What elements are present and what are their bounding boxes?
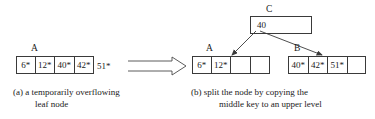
key-cell: 42* <box>75 57 94 73</box>
key-cell: 6* <box>193 57 212 73</box>
key-cell-empty <box>348 57 366 73</box>
overflow-key: 51* <box>97 62 111 71</box>
key-cell: 12* <box>212 57 232 73</box>
btree-split-figure: A 6* 12* 40* 42* 51* (a) a temporarily o… <box>0 0 375 119</box>
key-cell-empty <box>251 57 270 73</box>
leaf-node-b-split: 40* 42* 51* <box>288 56 366 74</box>
parent-key: 40 <box>251 21 266 30</box>
pointer-c-to-b <box>260 31 322 55</box>
leaf-node-a-split: 6* 12* <box>192 56 270 74</box>
key-cell-empty <box>231 57 251 73</box>
caption-panel-b-line1: (b) split the node by copying the <box>191 87 308 97</box>
key-cell: 40* <box>289 57 309 73</box>
key-cell: 6* <box>17 57 36 73</box>
caption-panel-a-line1: (a) a temporarily overflowing <box>13 87 120 97</box>
key-cell: 40* <box>55 57 75 73</box>
caption-panel-b-line2: middle key to an upper level <box>191 99 322 111</box>
key-cell: 51* <box>328 57 348 73</box>
node-label-a-left: A <box>31 44 38 54</box>
key-cell: 12* <box>36 57 56 73</box>
key-cell: 42* <box>309 57 329 73</box>
caption-panel-a-line2: leaf node <box>13 99 120 111</box>
internal-node-c: 40 <box>250 16 312 34</box>
caption-panel-a: (a) a temporarily overflowing leaf node <box>13 87 120 110</box>
caption-panel-b: (b) split the node by copying the middle… <box>191 87 322 110</box>
node-label-a-right: A <box>206 44 213 54</box>
pointer-c-to-a <box>232 31 256 55</box>
node-label-b: B <box>294 44 301 54</box>
leaf-node-a-overflowing: 6* 12* 40* 42* <box>16 56 94 74</box>
node-label-c: C <box>266 5 273 15</box>
